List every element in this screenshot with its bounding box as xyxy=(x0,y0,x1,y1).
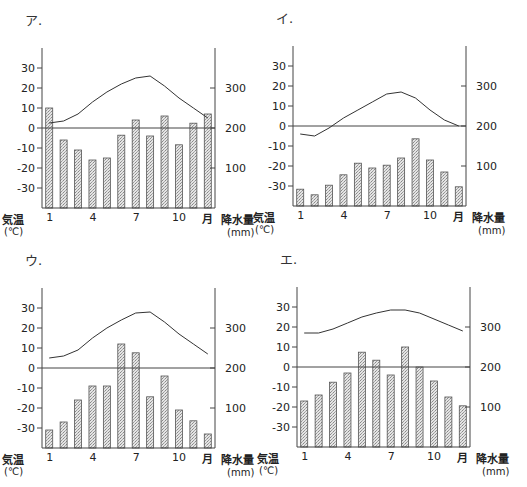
temperature-tick-label: 0 xyxy=(279,120,286,133)
precipitation-bar xyxy=(369,168,376,206)
precipitation-bar xyxy=(75,400,82,448)
climate-chart-svg: 3020100-10-20-30300200100 xyxy=(255,239,518,482)
month-tick-label: 7 xyxy=(133,451,140,464)
precipitation-bar xyxy=(412,139,419,206)
month-unit-label: 月 xyxy=(202,210,213,226)
precipitation-bars xyxy=(46,344,212,448)
precipitation-bar xyxy=(445,397,452,447)
month-tick-label: 1 xyxy=(297,209,304,222)
precipitation-tick-label: 300 xyxy=(225,82,246,95)
temperature-line xyxy=(49,312,208,358)
precipitation-bar xyxy=(297,189,304,206)
chart-title: ウ. xyxy=(25,250,42,269)
precipitation-bar xyxy=(426,160,433,206)
temperature-tick-label: -10 xyxy=(17,142,35,155)
temperature-tick-label: 0 xyxy=(28,362,35,375)
precipitation-bar xyxy=(175,145,182,208)
temperature-tick-label: -20 xyxy=(268,160,286,173)
temperature-tick-label: -20 xyxy=(272,401,290,414)
precipitation-bar xyxy=(441,172,448,206)
precipitation-bar xyxy=(387,375,394,447)
climate-chart-svg: 3020100-10-20-30300200100 xyxy=(0,240,263,483)
precipitation-tick-label: 200 xyxy=(476,120,497,133)
precipitation-tick-label: 100 xyxy=(225,162,246,175)
temperature-tick-label: 10 xyxy=(21,102,35,115)
temperature-tick-label: 20 xyxy=(276,321,290,334)
precipitation-bar xyxy=(147,397,154,448)
precipitation-axis-label: 降水量 xyxy=(221,451,254,467)
temperature-tick-label: -10 xyxy=(272,381,290,394)
axes: 3020100-10-20-30300200100 xyxy=(17,288,246,448)
chart-panel-a: 3020100-10-20-30300200100ア.14710月気温(℃)降水… xyxy=(0,0,263,243)
precipitation-bar xyxy=(118,135,125,208)
precipitation-bars xyxy=(46,108,212,208)
precipitation-bar xyxy=(301,401,308,447)
precipitation-tick-label: 200 xyxy=(225,122,246,135)
temperature-unit-label: (℃) xyxy=(255,224,274,235)
precipitation-bar xyxy=(161,376,168,448)
temperature-axis-label: 気温 xyxy=(2,211,24,227)
climate-chart-svg: 3020100-10-20-30300200100 xyxy=(251,0,514,241)
precipitation-bar xyxy=(402,347,409,447)
month-tick-label: 4 xyxy=(340,209,347,222)
precipitation-bar xyxy=(60,422,67,448)
precipitation-bar xyxy=(416,367,423,447)
temperature-tick-label: 30 xyxy=(21,62,35,75)
precipitation-bar xyxy=(430,381,437,447)
precipitation-bar xyxy=(344,373,351,447)
temperature-axis-label: 気温 xyxy=(257,450,279,466)
temperature-tick-label: -10 xyxy=(17,382,35,395)
temperature-tick-label: 0 xyxy=(28,122,35,135)
precipitation-tick-label: 200 xyxy=(480,361,501,374)
temperature-tick-label: 10 xyxy=(21,342,35,355)
temperature-tick-label: 20 xyxy=(21,82,35,95)
precipitation-bar xyxy=(455,187,462,206)
temperature-tick-label: 30 xyxy=(272,60,286,73)
chart-title: イ. xyxy=(276,8,293,27)
month-tick-label: 7 xyxy=(384,209,391,222)
month-tick-label: 1 xyxy=(46,211,53,224)
precipitation-tick-label: 200 xyxy=(225,362,246,375)
precipitation-tick-label: 300 xyxy=(476,80,497,93)
temperature-unit-label: (℃) xyxy=(259,465,278,476)
month-unit-label: 月 xyxy=(453,208,464,224)
precipitation-bar xyxy=(354,163,361,206)
precipitation-bar xyxy=(46,430,53,448)
month-tick-label: 10 xyxy=(172,451,186,464)
temperature-line xyxy=(300,92,459,136)
temperature-axis-label: 気温 xyxy=(2,451,24,467)
precipitation-bar xyxy=(89,160,96,208)
precipitation-bar xyxy=(60,140,67,208)
precipitation-bars xyxy=(297,139,463,206)
month-tick-label: 10 xyxy=(427,450,441,463)
temperature-tick-label: -30 xyxy=(268,180,286,193)
temperature-tick-label: -10 xyxy=(268,140,286,153)
precipitation-axis-label: 降水量 xyxy=(221,211,254,227)
precipitation-bar xyxy=(340,175,347,206)
month-tick-label: 4 xyxy=(89,211,96,224)
precipitation-bar xyxy=(89,386,96,448)
precipitation-bar xyxy=(358,352,365,447)
precipitation-tick-label: 300 xyxy=(225,322,246,335)
precipitation-bar xyxy=(132,353,139,448)
temperature-tick-label: -30 xyxy=(17,182,35,195)
precipitation-unit-label: (mm) xyxy=(227,467,254,478)
temperature-tick-label: 20 xyxy=(21,322,35,335)
month-tick-label: 7 xyxy=(388,450,395,463)
precipitation-bar xyxy=(330,382,337,447)
month-unit-label: 月 xyxy=(457,449,468,465)
precipitation-tick-label: 300 xyxy=(480,321,501,334)
month-unit-label: 月 xyxy=(202,450,213,466)
precipitation-bars xyxy=(301,347,467,447)
temperature-tick-label: -30 xyxy=(17,422,35,435)
month-tick-label: 10 xyxy=(423,209,437,222)
precipitation-bar xyxy=(103,386,110,448)
temperature-tick-label: 30 xyxy=(276,301,290,314)
precipitation-bar xyxy=(190,421,197,448)
temperature-tick-label: -20 xyxy=(17,162,35,175)
temperature-unit-label: (℃) xyxy=(4,466,23,477)
precipitation-bar xyxy=(459,406,466,447)
chart-panel-c: 3020100-10-20-30300200100ウ.14710月気温(℃)降水… xyxy=(0,240,263,483)
temperature-tick-label: 30 xyxy=(21,302,35,315)
temperature-tick-label: 0 xyxy=(283,361,290,374)
